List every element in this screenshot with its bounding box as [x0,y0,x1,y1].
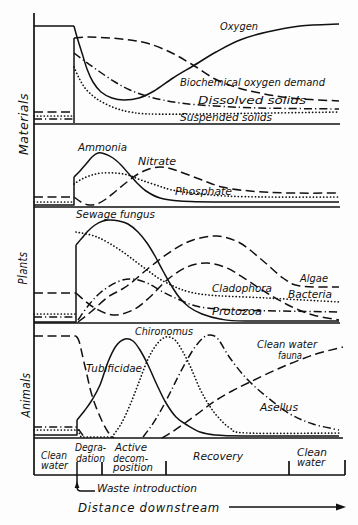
zone-bar: Clean water Degra- dation Active decom- … [41,441,327,473]
oxygen-label: Oxygen [220,20,258,32]
panel-plants: Sewage fungus Algae Cladophora Bacteria … [34,208,339,322]
diagram-canvas: Materials Plants Animals Oxygen Biochemi… [0,0,358,525]
river-pollution-diagram: Materials Plants Animals Oxygen Biochemi… [0,0,358,525]
panel-oxygen-solids: Oxygen Biochemical oxygen demand Dissolv… [34,20,339,123]
x-axis-label: Distance downstream [78,500,220,515]
zone-clean-water-right-line2: water [297,456,326,468]
y-label-plants: Plants [15,252,30,285]
nitrate-label: Nitrate [138,155,176,167]
dissolved-solids-label: Dissolved solids [198,94,307,106]
y-label-animals: Animals [18,373,33,419]
phosphate-label: Phosphate [175,185,232,197]
protozoa-label: Protozoa [212,305,262,317]
sewage-fungus-curve [34,220,339,322]
zone-recovery: Recovery [193,450,244,462]
panel-animals: Chironomus Tubificidae Clean water fauna… [34,325,343,438]
sewage-fungus-label: Sewage fungus [76,208,156,220]
zone-active-line3: position [112,461,153,473]
asellus-label: Asellus [259,401,299,413]
algae-label: Algae [299,272,328,284]
ammonia-label: Ammonia [77,141,127,153]
suspended-solids-label: Suspended solids [180,111,273,123]
arrow-up-icon [75,481,80,488]
chironomus-label: Chironomus [135,325,193,337]
cladophora-label: Cladophora [212,282,272,294]
zone-degradation-line2: dation [76,452,105,464]
arrow-right-icon [336,504,346,511]
waste-introduction-label: Waste introduction [97,482,197,494]
zone-clean-water-line2: water [41,459,69,471]
bod-label: Biochemical oxygen demand [180,76,325,88]
panel-nutrients: Ammonia Nitrate Phosphate [34,141,339,205]
oxygen-curve [34,24,339,100]
y-label-materials: Materials [16,93,31,155]
x-axis: Distance downstream [78,500,346,515]
clean-water-fauna-label-line2: fauna [278,349,302,361]
bacteria-label: Bacteria [288,288,332,300]
tubificidae-label: Tubificidae [86,362,142,374]
waste-introduction-line [77,462,95,491]
bacteria-curve [34,232,339,314]
